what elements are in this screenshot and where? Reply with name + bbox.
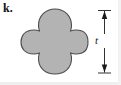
- figure-container: k. t: [0, 0, 121, 85]
- arrowhead-top: [102, 11, 107, 19]
- label-gap-mask: [101, 34, 108, 48]
- quatrefoil-shape: [21, 9, 88, 74]
- figure-drawing: [0, 0, 121, 85]
- dimension-arrow-vertical: [98, 11, 111, 74]
- arrowhead-bottom: [102, 65, 107, 73]
- dimension-label-t: t: [95, 34, 98, 46]
